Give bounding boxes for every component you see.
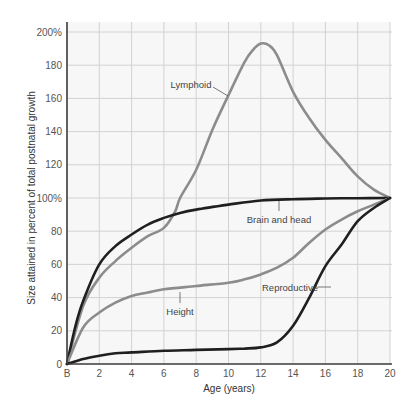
x-tick-label: 20 <box>384 368 396 379</box>
label-height: Height <box>166 306 194 317</box>
x-tick-label: 10 <box>223 368 235 379</box>
x-tick-label: 14 <box>288 368 300 379</box>
x-tick-label: B <box>64 368 71 379</box>
x-axis-title: Age (years) <box>203 383 255 394</box>
y-axis-title: Size attained in percent of total postna… <box>26 91 37 304</box>
y-tick-label: 60 <box>51 259 63 270</box>
y-tick-label: 200% <box>36 27 62 38</box>
x-tick-label: 18 <box>352 368 364 379</box>
x-tick-label: 6 <box>161 368 167 379</box>
x-tick-label: 16 <box>320 368 332 379</box>
y-axis-ticks: 020406080100%120140160180200% <box>36 27 62 370</box>
x-tick-label: 8 <box>193 368 199 379</box>
x-tick-label: 2 <box>97 368 103 379</box>
x-tick-label: 12 <box>255 368 267 379</box>
label-reproductive: Reproductive <box>262 282 318 293</box>
x-axis-ticks: B2468101214161820 <box>64 368 396 379</box>
label-brain-and-head: Brain and head <box>247 214 311 225</box>
x-tick-label: 4 <box>129 368 135 379</box>
y-tick-label: 0 <box>56 359 62 370</box>
y-tick-label: 140 <box>45 126 62 137</box>
y-tick-label: 80 <box>51 226 63 237</box>
y-tick-label: 160 <box>45 93 62 104</box>
y-tick-label: 100% <box>36 193 62 204</box>
label-lymphoid: Lymphoid <box>171 79 212 90</box>
y-tick-label: 180 <box>45 60 62 71</box>
y-tick-label: 40 <box>51 292 63 303</box>
y-tick-label: 120 <box>45 159 62 170</box>
growth-curves-chart: 020406080100%120140160180200% B246810121… <box>0 0 419 419</box>
y-tick-label: 20 <box>51 325 63 336</box>
